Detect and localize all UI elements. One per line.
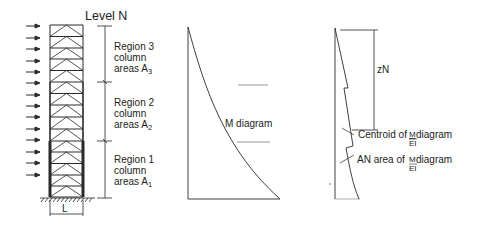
svg-text:M: M bbox=[409, 155, 416, 164]
svg-text:column: column bbox=[114, 165, 146, 176]
load-arrow-icon bbox=[26, 24, 40, 28]
lateral-load-arrows bbox=[26, 24, 40, 177]
moment-diagram-panel bbox=[188, 27, 280, 199]
load-arrow-icon bbox=[26, 70, 40, 74]
region-1-label: Region 1 column areas A1 bbox=[114, 154, 154, 189]
load-arrow-icon bbox=[26, 127, 40, 131]
load-arrow-icon bbox=[26, 36, 40, 40]
svg-text:Region 1: Region 1 bbox=[114, 154, 154, 165]
m-diagram-label: M diagram bbox=[225, 118, 272, 129]
level-n-label: Level N bbox=[85, 9, 127, 23]
centroid-leader bbox=[342, 128, 354, 135]
load-arrow-icon bbox=[26, 104, 40, 108]
svg-text:diagram: diagram bbox=[416, 154, 452, 165]
svg-text:M: M bbox=[409, 130, 416, 139]
svg-text:Region 2: Region 2 bbox=[114, 97, 154, 108]
structural-diagram: L Level N Region 3 column areas A3 Regio… bbox=[0, 0, 478, 226]
moment-curve bbox=[188, 27, 280, 199]
svg-text:areas A2: areas A2 bbox=[114, 119, 152, 132]
svg-text:EI: EI bbox=[409, 139, 417, 148]
svg-text:column: column bbox=[114, 108, 146, 119]
region-2-label: Region 2 column areas A2 bbox=[114, 97, 154, 132]
load-arrow-icon bbox=[26, 47, 40, 51]
load-arrow-icon bbox=[26, 59, 40, 63]
svg-text:diagram: diagram bbox=[416, 129, 452, 140]
area-label: AN area of M EI diagram bbox=[357, 154, 452, 173]
m-over-ei-panel bbox=[335, 28, 378, 199]
svg-text:Centroid of: Centroid of bbox=[358, 129, 407, 140]
braced-frame-panel: L Level N Region 3 column areas A3 Regio… bbox=[26, 9, 154, 216]
svg-text:column: column bbox=[114, 52, 146, 63]
stray-dot bbox=[329, 183, 330, 184]
m-over-ei-curve bbox=[335, 28, 359, 199]
area-leader bbox=[340, 155, 354, 163]
svg-text:areas A3: areas A3 bbox=[114, 63, 152, 76]
load-arrow-icon bbox=[26, 173, 40, 177]
svg-text:areas A1: areas A1 bbox=[114, 176, 152, 189]
load-arrow-icon bbox=[26, 150, 40, 154]
width-label: L bbox=[62, 203, 68, 214]
svg-text:AN area of: AN area of bbox=[357, 154, 405, 165]
zn-label: zN bbox=[377, 64, 389, 75]
region-dimension-line bbox=[97, 26, 112, 198]
load-arrow-icon bbox=[26, 115, 40, 119]
region-3-label: Region 3 column areas A3 bbox=[114, 41, 154, 76]
svg-text:EI: EI bbox=[409, 164, 417, 173]
load-arrow-icon bbox=[26, 81, 40, 85]
load-arrow-icon bbox=[26, 138, 40, 142]
load-arrow-icon bbox=[26, 93, 40, 97]
ground-support bbox=[40, 198, 95, 202]
load-arrow-icon bbox=[26, 161, 40, 165]
svg-text:Region 3: Region 3 bbox=[114, 41, 154, 52]
chevron-bracing bbox=[50, 25, 83, 197]
centroid-label: Centroid of M EI diagram bbox=[358, 129, 452, 148]
